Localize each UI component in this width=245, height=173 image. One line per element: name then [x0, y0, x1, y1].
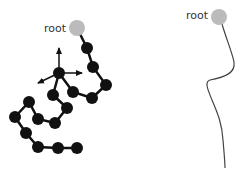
joint-node: [100, 79, 112, 91]
hub-joint-node: [53, 67, 65, 79]
right-root-node: [211, 9, 227, 25]
joint-node: [47, 89, 59, 101]
joint-node: [71, 142, 83, 154]
joint-node: [67, 86, 79, 98]
joint-node: [20, 127, 32, 139]
joint-node: [49, 117, 61, 129]
joint-node: [52, 142, 64, 154]
joint-node: [86, 92, 98, 104]
joint-node: [61, 102, 73, 114]
joint-node: [81, 42, 93, 54]
joint-node: [87, 61, 99, 73]
right-root-label: root: [186, 9, 209, 22]
left-root-label: root: [44, 22, 67, 35]
joint-node: [9, 111, 21, 123]
left-chain-diagram: root: [9, 20, 112, 154]
left-root-node: [69, 20, 85, 36]
joint-node: [32, 113, 44, 125]
curve-line: [207, 24, 234, 168]
joint-node: [23, 96, 35, 108]
joint-node: [32, 141, 44, 153]
chain-nodes: [9, 42, 112, 154]
right-curve-diagram: root: [186, 9, 234, 168]
diagram-canvas: root root: [0, 0, 245, 173]
